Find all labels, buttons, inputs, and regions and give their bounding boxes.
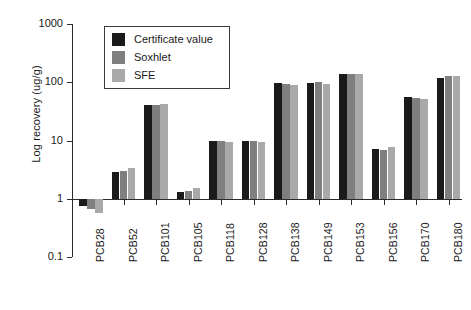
x-tick-label-PCB180: PCB180	[453, 222, 464, 262]
legend-swatch-sfe	[112, 69, 125, 82]
bar-PCB101-soxhlet	[152, 105, 160, 198]
bar-PCB105-sfe	[193, 188, 201, 198]
bar-PCB128-certificate-value	[242, 141, 250, 199]
bar-PCB118-sfe	[225, 142, 233, 199]
bar-PCB153-certificate-value	[339, 74, 347, 199]
bar-PCB128-sfe	[258, 142, 266, 199]
bar-PCB105-certificate-value	[177, 192, 185, 199]
y-tick-1	[67, 199, 72, 200]
x-tick-label-PCB128: PCB128	[258, 222, 269, 262]
x-tick-label-PCB105: PCB105	[193, 222, 204, 262]
bar-PCB105-soxhlet	[185, 191, 193, 199]
bar-PCB180-soxhlet	[445, 76, 453, 199]
x-tick-label-PCB149: PCB149	[323, 222, 334, 262]
bar-PCB101-sfe	[160, 104, 168, 199]
bar-PCB128-soxhlet	[250, 141, 258, 199]
chart-legend: Certificate valueSoxhletSFE	[104, 26, 230, 89]
bar-PCB138-soxhlet	[282, 84, 290, 199]
bar-PCB149-sfe	[323, 84, 331, 199]
bar-PCB180-sfe	[453, 76, 461, 199]
bar-PCB180-certificate-value	[437, 78, 445, 199]
bar-PCB156-soxhlet	[380, 150, 388, 199]
bar-PCB52-certificate-value	[112, 172, 120, 199]
chart-figure: Log recovery (ug/g) 10001001010.1 PCB28P…	[0, 0, 471, 310]
bar-PCB138-certificate-value	[274, 83, 282, 198]
y-axis-line	[72, 24, 73, 257]
legend-label-sfe: SFE	[134, 69, 155, 82]
bar-PCB28-soxhlet	[87, 199, 95, 209]
x-tick-label-PCB52: PCB52	[128, 228, 139, 262]
bar-PCB153-soxhlet	[347, 74, 355, 199]
bar-PCB118-soxhlet	[217, 141, 225, 199]
y-tick-0.1	[67, 257, 72, 258]
y-tick-label-10: 10	[17, 135, 63, 146]
x-tick-label-PCB156: PCB156	[388, 222, 399, 262]
bar-group-PCB28	[79, 24, 103, 257]
x-tick-label-PCB153: PCB153	[355, 222, 366, 262]
bar-PCB101-certificate-value	[144, 105, 152, 198]
y-tick-1000	[67, 24, 72, 25]
legend-swatch-soxhlet	[112, 51, 125, 64]
x-tick-label-PCB101: PCB101	[160, 222, 171, 262]
x-tick-label-PCB28: PCB28	[95, 228, 106, 262]
legend-label-certificate-value: Certificate value	[134, 33, 213, 46]
legend-swatch-certificate-value	[112, 33, 125, 46]
y-tick-100	[67, 82, 72, 83]
bar-PCB170-sfe	[420, 99, 428, 199]
x-tick-label-PCB170: PCB170	[420, 222, 431, 262]
bar-PCB52-soxhlet	[120, 171, 128, 199]
bar-PCB28-certificate-value	[79, 199, 87, 206]
bar-PCB138-sfe	[290, 85, 298, 199]
y-tick-label-0.1: 0.1	[17, 251, 63, 262]
bar-PCB28-sfe	[95, 199, 103, 213]
bar-PCB52-sfe	[128, 168, 136, 199]
legend-label-soxhlet: Soxhlet	[134, 51, 171, 64]
bar-PCB149-soxhlet	[315, 82, 323, 199]
y-tick-10	[67, 141, 72, 142]
x-tick-label-PCB118: PCB118	[225, 223, 236, 262]
bar-PCB170-soxhlet	[412, 98, 420, 198]
bar-PCB118-certificate-value	[209, 141, 217, 199]
x-tick-label-PCB138: PCB138	[290, 222, 301, 262]
bar-PCB170-certificate-value	[404, 97, 412, 198]
bar-PCB156-sfe	[388, 147, 396, 199]
y-tick-label-1: 1	[17, 193, 63, 204]
bar-PCB156-certificate-value	[372, 149, 380, 199]
bar-PCB153-sfe	[355, 74, 363, 199]
bar-PCB149-certificate-value	[307, 83, 315, 199]
y-axis-label: Log recovery (ug/g)	[30, 34, 42, 194]
y-tick-label-100: 100	[17, 76, 63, 87]
y-tick-label-1000: 1000	[17, 18, 63, 29]
